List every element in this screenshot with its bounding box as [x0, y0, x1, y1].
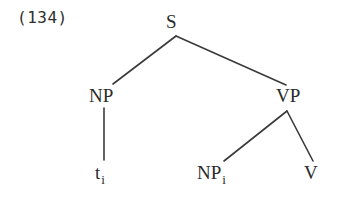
- tree-node-trace-subscript: i: [100, 172, 105, 187]
- tree-node-v-label: V: [304, 162, 318, 183]
- branch-vp-to-v: [287, 111, 313, 161]
- tree-node-vp-label: VP: [276, 85, 300, 106]
- tree-node-s-label: S: [166, 11, 177, 32]
- branch-s-to-np: [113, 36, 176, 84]
- tree-node-trace: ti: [95, 163, 105, 189]
- tree-node-np-subject-label: NP: [89, 85, 113, 106]
- tree-node-np-object-label: NP: [197, 162, 221, 183]
- tree-node-np-object-subscript: i: [221, 172, 226, 187]
- tree-node-vp: VP: [276, 86, 300, 105]
- tree-node-v: V: [304, 163, 318, 182]
- branch-s-to-vp: [176, 36, 286, 85]
- example-number-label: (134): [17, 8, 68, 27]
- branch-vp-to-np: [224, 111, 287, 161]
- syntax-tree-figure: (134) S NP VP ti NPi V: [0, 0, 347, 207]
- tree-node-np-subject: NP: [89, 86, 113, 105]
- tree-node-s: S: [166, 12, 177, 31]
- tree-node-np-object: NPi: [197, 163, 226, 189]
